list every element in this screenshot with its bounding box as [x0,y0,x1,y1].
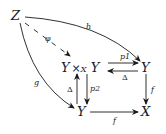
node-pullback: Y×X Y [61,61,99,74]
node-z: Z [11,9,20,22]
pullback-right-y: Y [91,60,100,75]
node-y-top-right: Y [141,61,150,74]
label-f-right: f [151,86,154,94]
label-delta-horizontal: Δ [122,74,128,82]
node-y-bottom: Y [77,105,86,118]
label-p2: p2 [90,85,100,93]
commutative-diagram: Z Y×X Y Y Y X h φ g p1 Δ Δ p2 f f [0,0,166,134]
label-delta-vertical: Δ [67,86,73,94]
label-g: g [34,79,39,87]
pullback-left-y: Y [61,60,70,75]
label-h: h [86,23,91,31]
pullback-subscript-x: X [81,65,87,74]
label-p1: p1 [120,53,130,61]
pullback-times: × [72,62,81,75]
node-x: X [141,105,150,118]
label-phi: φ [45,35,51,43]
label-f-bottom: f [113,117,116,125]
